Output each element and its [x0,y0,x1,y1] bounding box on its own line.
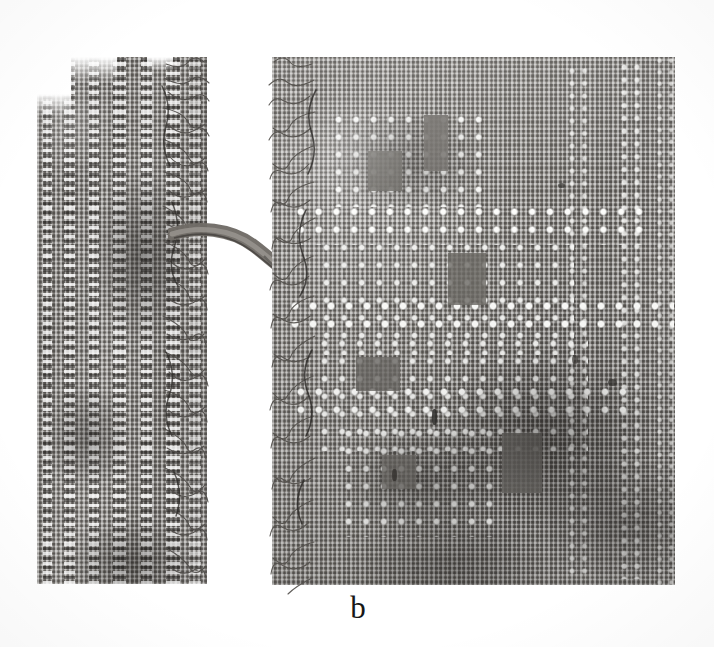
panel-label: b [350,590,366,625]
openwork-stripe [43,57,52,584]
figure-caption: b [0,588,714,628]
right-openwork-band-outer [620,63,646,579]
openwork-stripe [113,57,126,584]
figure-plate: b [0,0,714,647]
fabric-speck [392,469,397,481]
fabric-speck [608,379,617,386]
motif-mask-e [502,433,542,493]
fabric-speck [432,409,437,425]
left-top-notch-3 [147,57,173,71]
openwork-stripe [89,57,99,584]
right-selvedge-band [656,57,673,585]
openwork-stripe [141,57,152,584]
openwork-block-upper-shadow [334,115,482,207]
openwork-stripe [64,57,75,584]
fabric-speck [572,355,578,364]
motif-mask-b [368,151,402,191]
motif-mask-f [382,455,416,489]
openwork-block-bottom-shadow [344,429,496,537]
motif-mask-a [424,115,448,171]
left-top-notch-2 [71,57,117,83]
openwork-band-mid [290,301,674,335]
openwork-band-central [296,207,644,245]
right-textile-fragment [272,57,675,585]
fabric-speck [558,183,565,188]
left-top-notch [37,57,71,115]
right-openwork-band-inner [568,67,588,577]
motif-mask-c [448,253,486,305]
motif-mask-d [356,357,400,391]
